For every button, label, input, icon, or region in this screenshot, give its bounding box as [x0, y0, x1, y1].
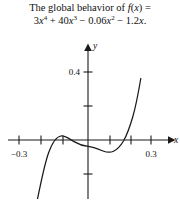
x-axis-label: x: [173, 135, 179, 145]
function-curve: [38, 79, 141, 200]
y-axis-arrowhead: [84, 44, 92, 52]
graph-svg: y x −0.3 0.3 0.4: [0, 33, 180, 199]
graph-figure: y x −0.3 0.3 0.4: [0, 33, 180, 199]
x-tick-label-right: 0.3: [145, 149, 157, 159]
caption-equals-sign: =: [145, 2, 151, 13]
caption-period: .: [144, 15, 147, 26]
y-axis-label: y: [92, 41, 98, 51]
term-2-coefficient: 40: [58, 15, 69, 26]
caption-line-2: 3x4 + 40x3 − 0.06x2 − 1.2x.: [0, 14, 180, 27]
figure-page: The global behavior of f(x) = 3x4 + 40x3…: [0, 0, 180, 199]
term-3-coefficient: 0.06: [88, 15, 106, 26]
y-tick-label-0.4: 0.4: [69, 67, 81, 77]
caption-line-1: The global behavior of f(x) =: [0, 1, 180, 14]
figure-caption: The global behavior of f(x) = 3x4 + 40x3…: [0, 1, 180, 27]
caption-text-prefix: The global behavior of: [29, 2, 128, 13]
x-tick-label-left: −0.3: [11, 149, 28, 159]
term-4-coefficient: 1.2: [126, 15, 139, 26]
